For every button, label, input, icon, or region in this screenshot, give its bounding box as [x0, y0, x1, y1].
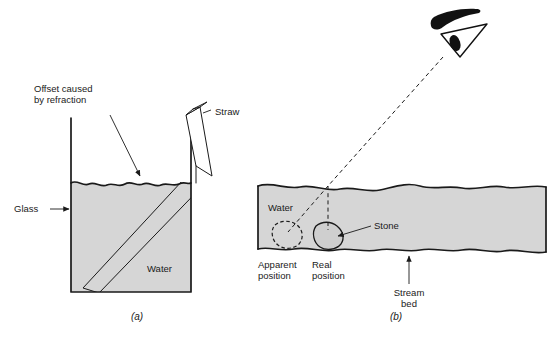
straw-upper-body: [186, 107, 212, 176]
ray-eye-to-surface: [328, 57, 443, 186]
stream-bed-label-line1: Stream: [394, 287, 425, 298]
offset-label-line2: by refraction: [34, 94, 86, 105]
panel-b-label: (b): [390, 311, 402, 322]
eye-icon: [431, 9, 487, 57]
refraction-figure: Offset caused by refraction Straw Glass …: [0, 0, 555, 342]
real-position-label-line1: Real: [312, 259, 332, 270]
apparent-position-label-line1: Apparent: [258, 259, 297, 270]
real-position-label-line2: position: [312, 270, 345, 281]
figure-canvas: Offset caused by refraction Straw Glass …: [0, 0, 555, 342]
water-label-a: Water: [147, 263, 172, 274]
apparent-position-label-line2: position: [258, 270, 291, 281]
eye-outline-shape: [441, 24, 487, 57]
panel-b-group: Water Stone Apparent position Real posit…: [258, 9, 546, 322]
straw-label: Straw: [215, 106, 239, 117]
offset-label-line1: Offset caused: [34, 83, 92, 94]
straw-leader-line: [203, 110, 211, 113]
stream-bed-label-line2: bed: [401, 298, 417, 309]
water-fill-stream: [258, 184, 546, 252]
glass-label: Glass: [14, 203, 39, 214]
water-label-b: Water: [268, 202, 293, 213]
straw-above-water: [186, 102, 212, 176]
offset-leader-line: [110, 115, 140, 176]
panel-a-label: (a): [131, 311, 143, 322]
stone-label: Stone: [374, 220, 399, 231]
panel-a-group: Offset caused by refraction Straw Glass …: [14, 83, 239, 322]
